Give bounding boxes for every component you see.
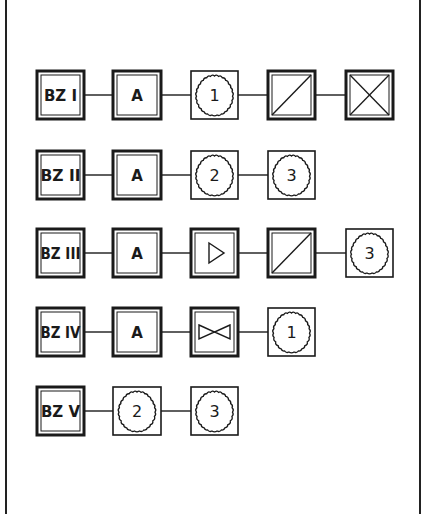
gear-box-1[interactable]: 1 [191,71,238,119]
zone-label: BZ I [44,87,77,105]
zone-label: BZ V [41,403,81,421]
amplifier-box[interactable] [191,229,238,277]
zone-label: BZ IV [41,324,81,342]
a-box[interactable]: A [113,229,161,277]
block-diagram: BZ I A 1 BZ II [0,0,425,514]
zone-label: BZ III [41,245,81,263]
gear-number: 1 [286,323,296,342]
row-bz-v: BZ V 2 3 [37,387,238,435]
gear-box-1[interactable]: 1 [268,308,315,356]
zone-box-bz-iv[interactable]: BZ IV [37,308,84,356]
zone-box-bz-ii[interactable]: BZ II [37,151,84,199]
gear-box-3[interactable]: 3 [191,387,238,435]
zone-label: BZ II [41,167,81,185]
a-box[interactable]: A [113,151,161,199]
gear-number: 2 [132,402,142,421]
gear-number: 3 [286,166,296,185]
gear-box-2[interactable]: 2 [113,387,161,435]
gear-box-2[interactable]: 2 [191,151,238,199]
zone-box-bz-i[interactable]: BZ I [37,71,84,119]
zone-box-bz-iii[interactable]: BZ III [37,229,84,277]
a-label: A [131,167,143,185]
gear-number: 2 [209,166,219,185]
a-box[interactable]: A [113,71,161,119]
gear-number: 3 [209,402,219,421]
a-box[interactable]: A [113,308,161,356]
a-label: A [131,87,143,105]
crossed-box[interactable] [346,71,393,119]
gear-number: 1 [209,86,219,105]
converter-box[interactable] [268,229,315,277]
a-label: A [131,324,143,342]
valve-box[interactable] [191,308,238,356]
a-label: A [131,245,143,263]
converter-box[interactable] [268,71,315,119]
gear-box-3[interactable]: 3 [268,151,315,199]
zone-box-bz-v[interactable]: BZ V [37,387,84,435]
gear-number: 3 [364,244,374,263]
gear-box-3[interactable]: 3 [346,229,393,277]
